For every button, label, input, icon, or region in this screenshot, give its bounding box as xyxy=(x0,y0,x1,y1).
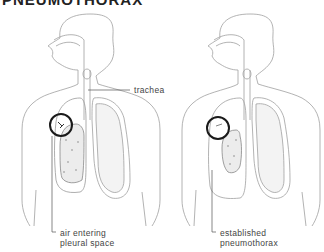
air-leader xyxy=(52,136,56,232)
established-line2: pneumothorax xyxy=(220,238,278,248)
air-entering-label: air entering pleural space xyxy=(60,228,114,248)
lung-texture xyxy=(63,139,237,173)
air-entering-line2: pleural space xyxy=(60,238,114,248)
right-torso xyxy=(182,14,320,226)
trachea-label: trachea xyxy=(134,85,164,95)
pneumothorax-leader xyxy=(212,170,216,232)
left-torso xyxy=(22,14,160,226)
established-line1: established xyxy=(220,228,278,238)
pneumothorax-illustration xyxy=(0,0,324,252)
established-pneumothorax-label: established pneumothorax xyxy=(220,228,278,248)
right-highlight-circle xyxy=(207,117,229,139)
air-entering-line1: air entering xyxy=(60,228,114,238)
